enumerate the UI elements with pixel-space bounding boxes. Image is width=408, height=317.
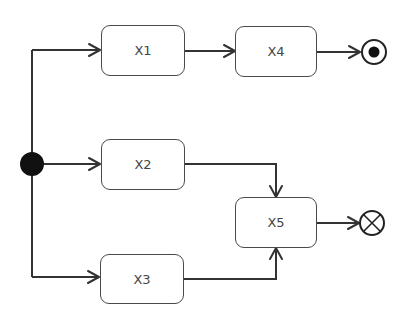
- action-x1: X1: [101, 25, 185, 76]
- action-x3-label: X3: [133, 272, 150, 287]
- diagram-canvas: [0, 0, 408, 317]
- edge-x3-x5: [183, 249, 276, 279]
- flow-final-node: [360, 211, 384, 235]
- action-x5: X5: [235, 197, 317, 248]
- action-x4: X4: [235, 26, 317, 77]
- action-x3: X3: [100, 254, 184, 304]
- activity-final-node: [362, 40, 386, 64]
- edge-x2-x5: [184, 164, 276, 196]
- action-x1-label: X1: [134, 43, 151, 58]
- action-x5-label: X5: [267, 215, 284, 230]
- action-x2-label: X2: [134, 157, 151, 172]
- action-x4-label: X4: [267, 44, 284, 59]
- action-x2: X2: [101, 139, 185, 190]
- initial-node: [20, 152, 44, 176]
